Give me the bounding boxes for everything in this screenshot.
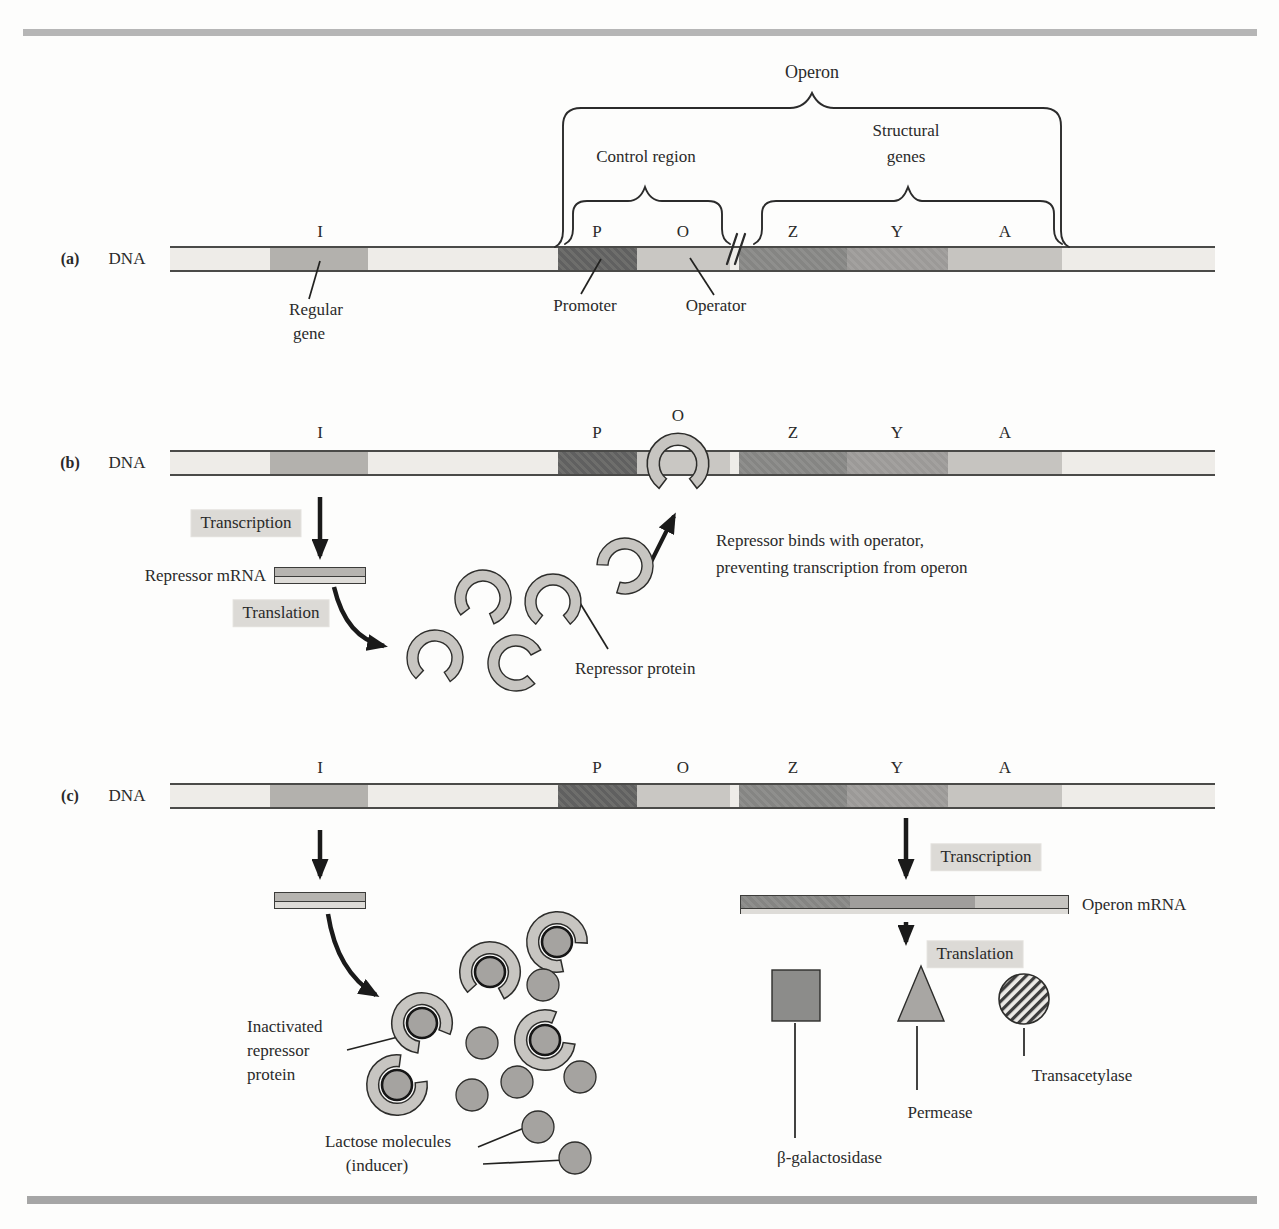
inactivated-repressor-label-3: protein xyxy=(247,1065,295,1085)
repressor-to-operator-arrow xyxy=(644,516,674,576)
gene-region-p xyxy=(558,248,637,270)
beta-galactosidase-icon xyxy=(772,970,820,1021)
gene-region-o xyxy=(637,452,730,474)
repressor-protein-line xyxy=(580,603,608,649)
inducer-curved-arrow xyxy=(328,914,376,995)
top-rule xyxy=(23,29,1257,36)
gene-region-y xyxy=(847,248,948,270)
lactose-molecules-label: Lactose molecules xyxy=(325,1132,451,1152)
gene-region-z xyxy=(739,785,847,807)
inactivated-repressor-icon xyxy=(504,1002,581,1081)
panel-c-tag: (c) xyxy=(61,787,79,805)
gene-letter-i: I xyxy=(317,758,323,778)
dna-label-b: DNA xyxy=(109,453,146,473)
repressor-protein-label: Repressor protein xyxy=(575,659,695,679)
gene-letter-a: A xyxy=(999,222,1011,242)
transcription-label-c: Transcription xyxy=(932,844,1041,870)
gene-region-p xyxy=(558,452,637,474)
gene-letter-p: P xyxy=(592,222,601,242)
gene-products xyxy=(772,966,1049,1024)
figure-canvas: (a) DNA I P O Z Y A Operon Control regio… xyxy=(0,0,1279,1229)
control-region-label: Control region xyxy=(596,147,696,167)
lactose-line-2 xyxy=(483,1160,565,1164)
inactivated-repressor-line xyxy=(347,1037,398,1050)
lactose-molecule-icon xyxy=(559,1142,591,1174)
dna-label-c: DNA xyxy=(109,786,146,806)
panel-a-tag: (a) xyxy=(61,250,80,268)
panel-b-tag: (b) xyxy=(60,454,80,472)
gene-region-i xyxy=(270,248,368,270)
lactose-line-1 xyxy=(478,1124,534,1147)
gene-region-i xyxy=(270,785,368,807)
repressor-mrna-band-c xyxy=(274,892,366,909)
repressor-mrna-band xyxy=(274,567,366,584)
gene-letter-i: I xyxy=(317,423,323,443)
control-region-brace xyxy=(565,187,730,244)
gene-letter-z: Z xyxy=(788,423,798,443)
inactivated-repressor-icon xyxy=(514,899,594,980)
structural-genes-label: Structural xyxy=(872,121,939,141)
dna-label-a: DNA xyxy=(109,249,146,269)
inactivated-repressors xyxy=(354,899,594,1127)
repressor-protein-icon xyxy=(450,564,517,627)
regular-gene-label: Regular xyxy=(289,300,343,320)
gene-letter-o: O xyxy=(672,406,684,426)
gene-letter-i: I xyxy=(317,222,323,242)
gene-region-a xyxy=(948,785,1062,807)
operon-braces xyxy=(555,93,1069,264)
repressor-protein-icon xyxy=(525,574,581,624)
repressor-protein-icon xyxy=(405,628,465,683)
lactose-molecules-label-2: (inducer) xyxy=(346,1156,408,1176)
translation-label-b: Translation xyxy=(234,600,329,626)
gene-region-o xyxy=(637,248,730,270)
dna-band-a xyxy=(170,246,1215,272)
lactose-molecules xyxy=(456,969,596,1174)
gene-letter-o: O xyxy=(677,758,689,778)
translation-arrow-b xyxy=(334,587,384,646)
diagram-overlay xyxy=(0,0,1279,1229)
bottom-rule xyxy=(27,1196,1257,1204)
gene-letter-p: P xyxy=(592,423,601,443)
operon-mrna-label: Operon mRNA xyxy=(1082,895,1186,915)
translation-label-c: Translation xyxy=(928,941,1023,967)
gene-region-y xyxy=(847,452,948,474)
gene-region-a xyxy=(948,248,1062,270)
inactivated-repressor-icon xyxy=(456,937,525,1001)
inactivated-repressor-icon xyxy=(354,1047,435,1128)
structural-genes-brace xyxy=(754,187,1062,244)
gene-region-i xyxy=(270,452,368,474)
operator-label: Operator xyxy=(686,296,746,316)
inactivated-repressor-label-2: repressor xyxy=(247,1041,309,1061)
permease-icon xyxy=(898,966,944,1021)
gene-letter-y: Y xyxy=(891,758,903,778)
repressor-mrna-label: Repressor mRNA xyxy=(145,566,266,586)
repressor-protein-icon xyxy=(591,527,664,602)
gene-letter-y: Y xyxy=(891,423,903,443)
operon-brace xyxy=(555,93,1069,247)
gene-letter-a: A xyxy=(999,423,1011,443)
lactose-molecule-icon xyxy=(466,1027,498,1059)
gene-letter-z: Z xyxy=(788,222,798,242)
transacetylase-icon xyxy=(999,974,1049,1024)
gene-letter-o: O xyxy=(677,222,689,242)
gene-letter-z: Z xyxy=(788,758,798,778)
lactose-molecule-icon xyxy=(564,1061,596,1093)
structural-genes-label-2: genes xyxy=(887,147,926,167)
gene-region-y xyxy=(847,785,948,807)
gene-region-a xyxy=(948,452,1062,474)
gene-region-z xyxy=(739,248,847,270)
beta-galactosidase-label: β-galactosidase xyxy=(777,1148,882,1168)
gene-region-z xyxy=(739,452,847,474)
lactose-molecule-icon xyxy=(501,1066,533,1098)
dna-band-c xyxy=(170,783,1215,809)
transacetylase-label: Transacetylase xyxy=(1032,1066,1132,1086)
gene-region-p xyxy=(558,785,637,807)
gene-region-o xyxy=(637,785,730,807)
inactivated-repressor-icon xyxy=(381,982,460,1059)
operon-label: Operon xyxy=(785,62,839,83)
callout-lines xyxy=(309,258,1024,1164)
permease-label: Permease xyxy=(907,1103,972,1123)
gene-letter-a: A xyxy=(999,758,1011,778)
promoter-label: Promoter xyxy=(553,296,616,316)
lactose-molecule-icon xyxy=(456,1079,488,1111)
